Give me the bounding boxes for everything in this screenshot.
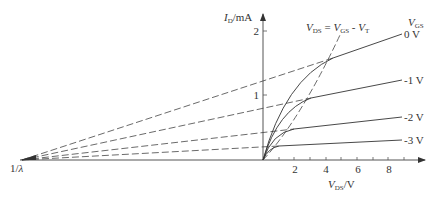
saturation-boundary-label: VDS = VGS - VT: [306, 21, 370, 35]
y-tick-label-1: 1: [254, 89, 260, 101]
channel-length-modulation-extrapolations: [22, 58, 333, 160]
curve-vgs-minus-2v: [263, 117, 402, 160]
x-axis-label: VDS/V: [328, 178, 355, 192]
x-tick-label-6: 6: [355, 163, 361, 175]
curve-label-minus-2v: -2 V: [404, 111, 424, 123]
convergence-point-marker: [20, 155, 36, 160]
x-tick-label-2: 2: [292, 163, 298, 175]
y-tick-label-2: 2: [254, 25, 260, 37]
curve-label-minus-3v: -3 V: [404, 134, 424, 146]
mosfet-output-characteristics-diagram: 2 4 6 8 1 2: [0, 0, 434, 197]
y-axis-ticks: [263, 31, 267, 95]
x-tick-label-4: 4: [323, 163, 329, 175]
inverse-lambda-label: 1/λ: [10, 162, 24, 174]
y-axis-label: ID/mA: [223, 11, 252, 25]
curve-label-minus-1v: -1 V: [404, 74, 424, 86]
saturation-boundary-curve: [263, 35, 340, 160]
curve-vgs-minus-3v: [263, 140, 402, 160]
curve-vgs-minus-1v: [263, 80, 402, 160]
x-tick-label-8: 8: [386, 163, 392, 175]
curve-label-0v: 0 V: [404, 28, 420, 40]
diagram-canvas: 2 4 6 8 1 2: [0, 0, 434, 197]
